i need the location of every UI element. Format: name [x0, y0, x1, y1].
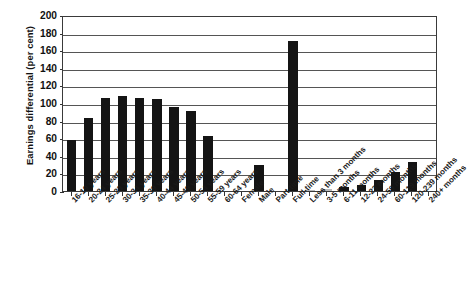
y-tick-label-140: 140 — [40, 64, 57, 74]
y-tick-label-180: 180 — [40, 28, 57, 38]
y-tick-label-200: 200 — [40, 11, 57, 21]
y-tick-label-80: 80 — [46, 116, 57, 126]
plot-area — [62, 16, 437, 192]
bar — [67, 140, 77, 191]
y-tick-label-100: 100 — [40, 99, 57, 109]
bars-layer — [63, 17, 436, 191]
y-tick-label-160: 160 — [40, 46, 57, 56]
y-axis-tick-labels: 020406080100120140160180200 — [24, 16, 60, 192]
y-tick-label-20: 20 — [46, 169, 57, 179]
y-tick-label-60: 60 — [46, 134, 57, 144]
x-axis-category-labels: 16-19 years20-24 years25-23 years30-34 y… — [0, 192, 451, 290]
y-tick-label-40: 40 — [46, 152, 57, 162]
bar — [288, 41, 298, 191]
y-tick-label-120: 120 — [40, 81, 57, 91]
